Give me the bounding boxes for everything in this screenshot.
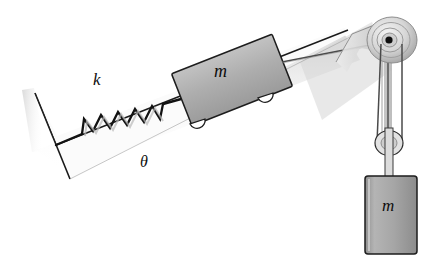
spring-constant-label: k — [93, 70, 101, 90]
pulley-hub — [385, 36, 392, 43]
movable-pulley — [375, 128, 403, 178]
physics-diagram-svg — [0, 0, 446, 265]
figure-canvas: k θ m m — [0, 0, 446, 265]
wall-shadow — [22, 88, 46, 152]
fixed-pulley — [367, 17, 417, 63]
incline-angle-label: θ — [140, 153, 148, 171]
hanger-rod — [385, 128, 393, 178]
block-body — [171, 34, 292, 126]
block-mass-label: m — [214, 61, 227, 82]
hanging-mass-label: m — [382, 196, 394, 216]
block-on-incline — [171, 34, 292, 126]
